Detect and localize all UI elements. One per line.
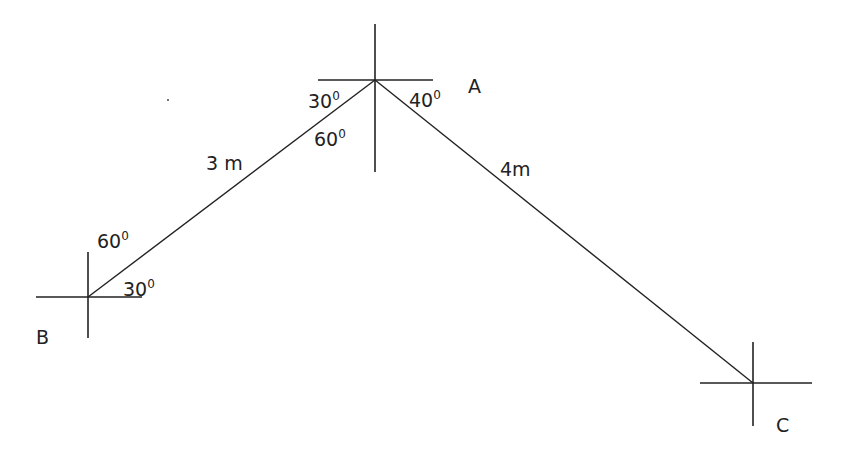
survey-diagram: A B C 3 m 4m 300 600 400 600 300 <box>0 0 843 452</box>
segment-ac <box>375 80 753 383</box>
label-b: B <box>36 326 49 348</box>
angle-a-left-lower: 600 <box>314 127 346 150</box>
segment-ba <box>88 80 375 297</box>
angle-b-upper: 600 <box>97 229 129 252</box>
label-a: A <box>468 75 481 97</box>
label-c: C <box>776 414 789 436</box>
angle-b-lower: 300 <box>123 277 155 300</box>
length-ac: 4m <box>500 158 531 180</box>
angle-a-right: 400 <box>409 88 441 111</box>
stray-dot <box>167 99 169 101</box>
angle-a-left-upper: 300 <box>308 89 340 112</box>
length-ba: 3 m <box>206 152 243 174</box>
